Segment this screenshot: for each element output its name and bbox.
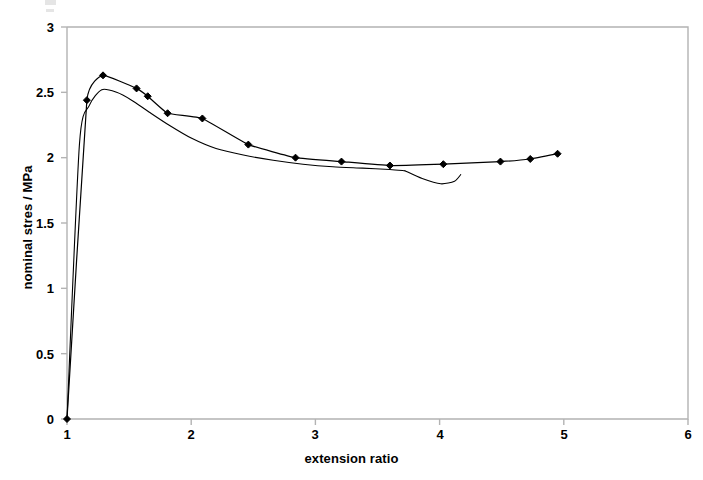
data-point-marker [386, 162, 393, 169]
y-tick-label: 2 [8, 150, 54, 165]
axis-frame [67, 27, 688, 419]
data-point-marker [199, 115, 206, 122]
x-tick-label: 1 [47, 427, 87, 442]
data-point-marker [100, 72, 107, 79]
data-series-group [67, 75, 558, 419]
y-tick-label: 0 [8, 412, 54, 427]
x-tick-label: 3 [295, 427, 335, 442]
series-line-1 [67, 89, 405, 419]
y-tick-label: 2.5 [8, 85, 54, 100]
data-point-marker [164, 110, 171, 117]
data-point-marker [497, 158, 504, 165]
y-tick-label: 1 [8, 281, 54, 296]
data-point-marker [292, 154, 299, 161]
data-markers-group [64, 72, 562, 423]
data-point-marker [440, 161, 447, 168]
data-point-marker [527, 155, 534, 162]
y-tick-label: 0.5 [8, 347, 54, 362]
x-axis-title: extension ratio [0, 451, 703, 466]
x-tick-label: 5 [544, 427, 584, 442]
y-tick-label: 3 [8, 20, 54, 35]
data-point-marker [83, 97, 90, 104]
data-point-marker [245, 141, 252, 148]
x-axis-ticks [67, 419, 688, 425]
series-line-2 [405, 171, 461, 184]
data-point-marker [554, 150, 561, 157]
data-point-marker [338, 158, 345, 165]
data-point-marker [133, 85, 140, 92]
data-point-marker [64, 416, 71, 423]
x-tick-label: 6 [668, 427, 703, 442]
chart-container: nominal stres / MPa extension ratio 32.5… [0, 0, 703, 480]
series-line-0 [67, 75, 558, 419]
plot-area [0, 0, 703, 480]
y-axis-ticks [61, 27, 67, 419]
y-tick-label: 1.5 [8, 216, 54, 231]
x-tick-label: 4 [420, 427, 460, 442]
x-tick-label: 2 [171, 427, 211, 442]
